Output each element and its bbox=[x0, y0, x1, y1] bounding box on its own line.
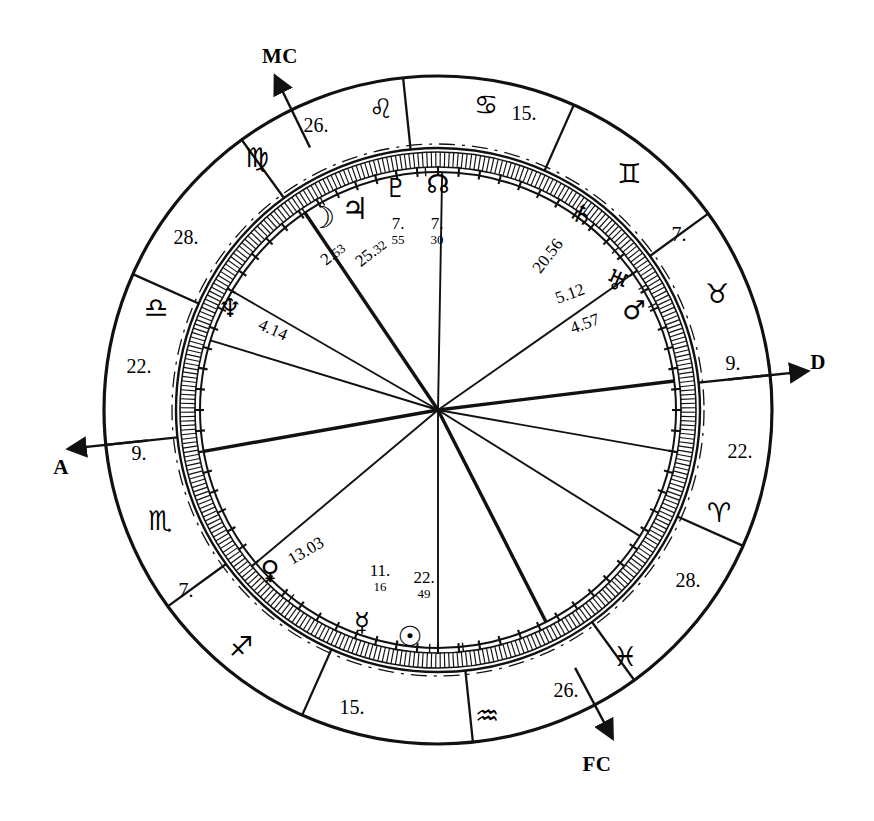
sign-glyph-libra: ♎ bbox=[144, 294, 168, 321]
axis-label-descendant: D bbox=[810, 350, 826, 375]
cusp-number-9: 7. bbox=[179, 579, 194, 602]
cusp-number-2: 15. bbox=[512, 102, 537, 125]
axis-label-ascendant: A bbox=[53, 455, 69, 480]
cusp-number-3: 7. bbox=[672, 223, 687, 246]
sign-glyph-taurus: ♉ bbox=[705, 280, 729, 307]
planet-degree-north-node-min: 30 bbox=[431, 233, 444, 247]
planet-glyph-mars: ♂ bbox=[622, 297, 645, 323]
axis-label-fc: FC bbox=[583, 752, 612, 777]
sign-glyph-aquarius: ♒ bbox=[475, 702, 499, 729]
cusp-number-12: 28. bbox=[174, 226, 199, 249]
cusp-number-7: 26. bbox=[554, 679, 579, 702]
planet-degree-north-node: 7. 30 bbox=[431, 215, 444, 246]
planet-degree-mercury-deg: 11. bbox=[370, 562, 391, 580]
planet-glyph-mercury: ☿ bbox=[354, 609, 370, 635]
planet-degree-pluto-deg: 7. bbox=[392, 215, 405, 233]
planet-degree-pluto: 7. 55 bbox=[392, 215, 405, 246]
planet-glyph-jupiter: ♃ bbox=[342, 194, 369, 224]
planet-glyph-north-node: ☊ bbox=[426, 171, 449, 197]
planet-degree-north-node-deg: 7. bbox=[431, 215, 444, 233]
axis-label-mc: MC bbox=[262, 44, 298, 69]
sign-glyph-leo: ♌ bbox=[369, 95, 393, 122]
sign-glyph-scorpio: ♏ bbox=[148, 507, 172, 534]
cusp-number-1: 26. bbox=[304, 114, 329, 137]
sign-glyph-sagittarius: ♐ bbox=[229, 633, 253, 660]
planet-glyph-pluto: ♇ bbox=[384, 175, 407, 201]
planet-glyph-moon: ☽ bbox=[309, 203, 336, 233]
planet-degree-sun-deg: 22. bbox=[413, 569, 434, 587]
astrology-chart: MC A D FC ♍ ♌ ♋ ♊ ♉ ♈ ♓ ♒ ♐ ♏ ♎ 26. 15. … bbox=[0, 0, 874, 821]
sign-glyph-gemini: ♊ bbox=[617, 160, 641, 187]
cusp-number-10: 9. bbox=[132, 442, 147, 465]
planet-glyph-sun: ☉ bbox=[397, 623, 422, 651]
sign-glyph-virgo: ♍ bbox=[245, 144, 269, 171]
planet-glyph-neptune: ♆ bbox=[218, 295, 241, 321]
cusp-number-8: 15. bbox=[340, 696, 365, 719]
cusp-number-11: 22. bbox=[127, 355, 152, 378]
planet-degree-sun: 22. 49 bbox=[413, 569, 434, 600]
planet-degree-mercury-min: 16 bbox=[370, 580, 391, 594]
cusp-number-5: 22. bbox=[728, 440, 753, 463]
cusp-number-6: 28. bbox=[676, 569, 701, 592]
cusp-number-4: 9. bbox=[726, 352, 741, 375]
planet-glyph-venus: ♀ bbox=[260, 557, 279, 583]
planet-degree-mercury: 11. 16 bbox=[370, 562, 391, 593]
sign-glyph-pisces: ♓ bbox=[613, 643, 637, 670]
planet-degree-pluto-min: 55 bbox=[392, 233, 405, 247]
sign-glyph-cancer: ♋ bbox=[474, 91, 498, 118]
sign-glyph-aries: ♈ bbox=[707, 499, 731, 526]
chart-wheel-graphics bbox=[0, 0, 874, 821]
planet-degree-sun-min: 49 bbox=[413, 587, 434, 601]
